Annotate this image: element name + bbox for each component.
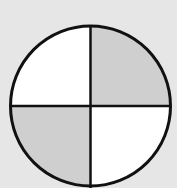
fraction-circle-diagram <box>0 0 177 188</box>
